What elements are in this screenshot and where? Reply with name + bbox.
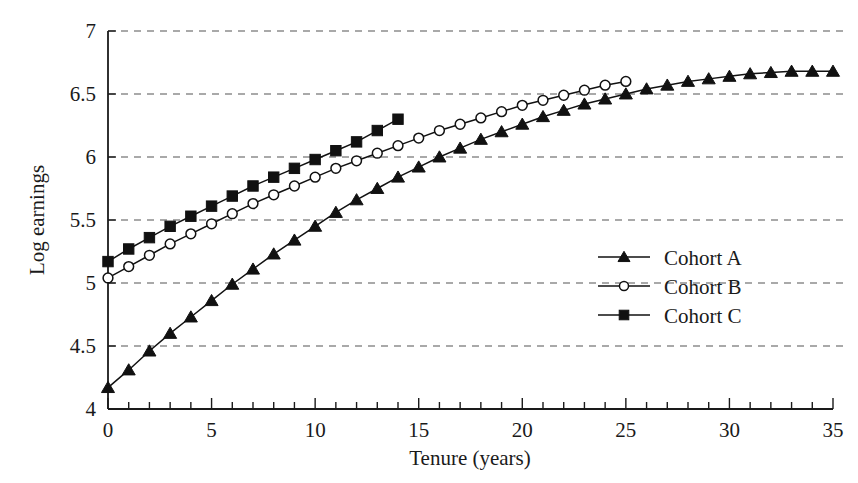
marker-open-circle: [517, 100, 527, 110]
marker-open-circle: [414, 133, 424, 143]
marker-open-circle: [559, 90, 569, 100]
marker-open-circle: [621, 77, 631, 87]
marker-open-circle: [145, 250, 155, 260]
marker-filled-square: [372, 125, 382, 135]
marker-open-circle: [124, 262, 134, 272]
legend-label: Cohort C: [664, 304, 742, 328]
x-tick-label: 20: [512, 418, 533, 442]
marker-open-circle: [600, 80, 610, 90]
marker-filled-square: [124, 244, 134, 254]
x-axis-title: Tenure (years): [409, 446, 531, 470]
x-tick-label: 30: [719, 418, 740, 442]
marker-filled-square: [165, 221, 175, 231]
marker-open-circle: [435, 126, 445, 136]
x-tick-label: 15: [408, 418, 429, 442]
marker-filled-square: [393, 114, 403, 124]
marker-filled-square: [269, 172, 279, 182]
x-tick-label: 0: [103, 418, 114, 442]
y-tick-label: 5.5: [70, 208, 96, 232]
marker-open-circle: [476, 113, 486, 123]
y-tick-label: 5: [86, 271, 97, 295]
y-tick-label: 6.5: [70, 82, 96, 106]
marker-open-circle: [331, 163, 341, 173]
marker-open-circle: [538, 95, 548, 105]
marker-filled-square: [206, 201, 216, 211]
marker-open-circle: [186, 229, 196, 239]
legend-label: Cohort B: [664, 275, 742, 299]
y-tick-label: 4: [86, 397, 97, 421]
y-tick-label: 6: [86, 145, 97, 169]
marker-open-circle: [455, 119, 465, 129]
marker-filled-square: [310, 154, 320, 164]
marker-open-circle: [352, 156, 362, 166]
x-tick-label: 5: [206, 418, 217, 442]
marker-filled-square: [186, 211, 196, 221]
marker-open-circle: [290, 181, 300, 191]
marker-open-circle: [580, 85, 590, 95]
y-tick-label: 7: [86, 19, 97, 43]
y-axis-title: Log earnings: [25, 165, 49, 275]
marker-open-circle: [248, 199, 258, 209]
marker-open-circle: [497, 107, 507, 117]
marker-open-circle: [103, 273, 113, 283]
marker-open-circle: [269, 190, 279, 200]
chart-figure: 44.555.566.57 05101520253035 Tenure (yea…: [0, 0, 858, 483]
marker-filled-square: [331, 146, 341, 156]
marker-open-circle: [393, 141, 403, 151]
marker-open-circle: [165, 239, 175, 249]
marker-open-circle: [619, 281, 628, 290]
x-tick-label: 10: [305, 418, 326, 442]
x-tick-label: 35: [823, 418, 844, 442]
marker-filled-square: [289, 163, 299, 173]
marker-open-circle: [372, 148, 382, 158]
y-tick-label: 4.5: [70, 334, 96, 358]
legend-label: Cohort A: [664, 246, 742, 270]
legend: Cohort ACohort BCohort C: [598, 246, 742, 328]
marker-filled-square: [619, 310, 629, 320]
marker-filled-square: [248, 181, 258, 191]
x-tick-label: 25: [615, 418, 636, 442]
line-chart: 44.555.566.57 05101520253035 Tenure (yea…: [0, 0, 858, 483]
marker-filled-square: [103, 256, 113, 266]
marker-open-circle: [310, 172, 320, 182]
marker-open-circle: [207, 219, 217, 229]
marker-filled-square: [351, 137, 361, 147]
marker-filled-square: [144, 232, 154, 242]
marker-open-circle: [227, 209, 237, 219]
marker-filled-square: [227, 191, 237, 201]
